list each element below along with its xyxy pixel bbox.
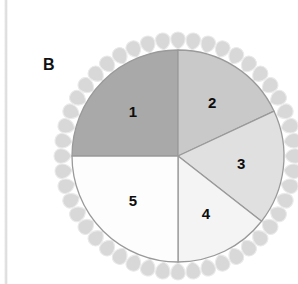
petal-shape <box>54 149 71 163</box>
pie-slice-group <box>72 50 284 262</box>
figure-panel-b: B 12345 <box>0 0 298 284</box>
petal-shape <box>285 149 298 163</box>
petal-icon <box>279 117 298 135</box>
petal-icon <box>285 149 298 163</box>
pie-chart: 12345 <box>0 0 298 284</box>
petal-icon <box>199 34 217 54</box>
petal-shape <box>279 177 298 195</box>
petal-shape <box>283 133 298 149</box>
petal-icon <box>283 133 298 149</box>
petal-icon <box>171 32 185 49</box>
petal-icon <box>139 34 157 54</box>
petal-shape <box>199 34 217 54</box>
petal-icon <box>54 163 73 179</box>
petal-shape <box>54 163 73 179</box>
petal-icon <box>199 257 217 277</box>
petal-icon <box>54 149 71 163</box>
petal-icon <box>283 163 298 179</box>
petal-shape <box>185 261 201 280</box>
petal-shape <box>155 32 171 51</box>
pie-slice-1[interactable] <box>72 50 178 156</box>
petal-icon <box>56 177 76 195</box>
pie-slice-label-3: 3 <box>237 155 245 172</box>
pie-slice-label-1: 1 <box>129 103 137 120</box>
petal-icon <box>139 257 157 277</box>
petal-icon <box>279 177 298 195</box>
petal-icon <box>54 133 73 149</box>
pie-slice-label-2: 2 <box>208 94 216 111</box>
petal-icon <box>185 32 201 51</box>
pie-slice-5[interactable] <box>72 156 178 262</box>
petal-shape <box>185 32 201 51</box>
petal-shape <box>139 34 157 54</box>
petal-icon <box>155 261 171 280</box>
petal-shape <box>171 32 185 49</box>
petal-shape <box>279 117 298 135</box>
petal-icon <box>185 261 201 280</box>
pie-slice-label-4: 4 <box>202 205 211 222</box>
petal-shape <box>56 117 76 135</box>
petal-shape <box>139 257 157 277</box>
pie-slice-label-5: 5 <box>129 192 137 209</box>
petal-icon <box>155 32 171 51</box>
pie-chart-svg: 12345 <box>0 0 298 284</box>
petal-icon <box>171 263 185 280</box>
petal-shape <box>54 133 73 149</box>
petal-shape <box>283 163 298 179</box>
petal-shape <box>199 257 217 277</box>
petal-shape <box>155 261 171 280</box>
petal-shape <box>171 263 185 280</box>
petal-shape <box>56 177 76 195</box>
petal-icon <box>56 117 76 135</box>
